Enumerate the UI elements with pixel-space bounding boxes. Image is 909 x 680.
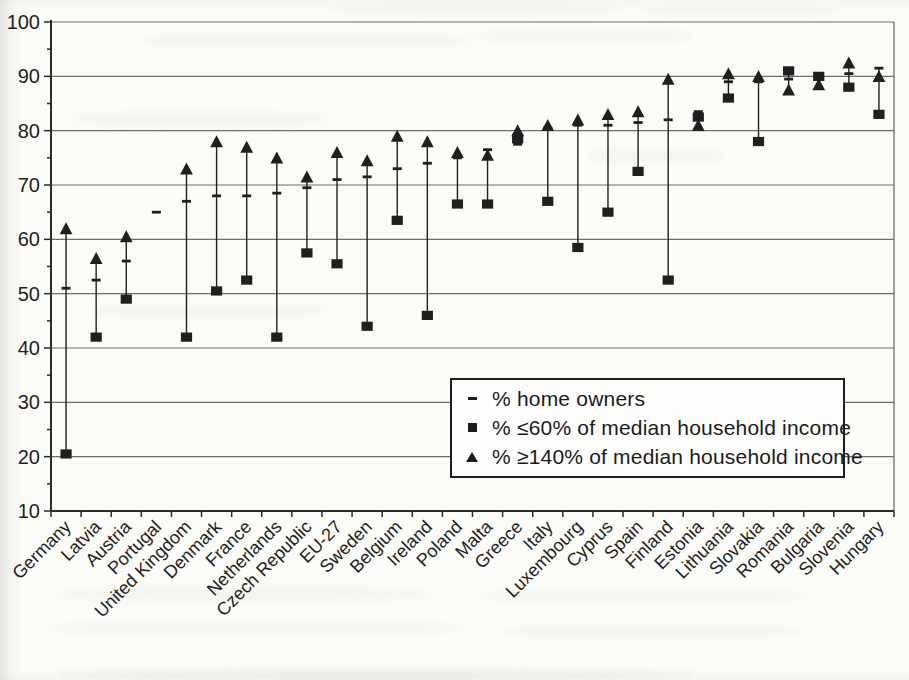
triangle-marker-icon (602, 108, 615, 120)
dash-marker-icon (302, 186, 311, 189)
y-axis-ticks (44, 22, 51, 511)
square-marker-icon (572, 243, 583, 252)
dash-marker-icon (724, 80, 733, 83)
dash-marker-icon (423, 162, 432, 165)
dash-marker-icon (634, 121, 643, 124)
series-home-owners (62, 67, 884, 290)
triangle-marker-icon (210, 135, 223, 147)
square-marker-icon (783, 66, 794, 75)
dash-marker-icon (92, 279, 101, 282)
square-marker-icon (91, 333, 102, 342)
x-axis-labels: GermanyLatviaAustriaPortugalUnited Kingd… (8, 516, 887, 621)
legend-marker-cell (452, 397, 492, 400)
square-marker-icon (468, 423, 477, 432)
chart-canvas: 102030405060708090100GermanyLatviaAustri… (0, 0, 909, 680)
y-tick-label: 70 (18, 174, 40, 196)
triangle-marker-icon (331, 146, 344, 158)
dash-marker-icon (468, 397, 477, 400)
scanned-chart-page: 102030405060708090100GermanyLatviaAustri… (0, 0, 909, 680)
dash-marker-icon (664, 118, 673, 121)
dash-marker-icon (393, 167, 402, 170)
legend-marker-cell (452, 452, 492, 462)
y-tick-label: 90 (18, 65, 40, 87)
triangle-marker-icon (842, 56, 855, 68)
dash-marker-icon (874, 67, 883, 70)
triangle-marker-icon (90, 252, 103, 264)
triangle-marker-icon (782, 84, 795, 96)
y-tick-label: 10 (18, 500, 40, 522)
y-tick-label: 20 (18, 446, 40, 468)
square-marker-icon (753, 137, 764, 146)
square-marker-icon (271, 333, 282, 342)
legend-label-low-income: % ≤60% of median household income (492, 416, 851, 440)
triangle-marker-icon (270, 152, 283, 164)
dash-marker-icon (363, 175, 372, 178)
square-marker-icon (121, 295, 132, 304)
square-marker-icon (723, 93, 734, 102)
dash-marker-icon (333, 178, 342, 181)
dash-marker-icon (152, 211, 161, 214)
triangle-marker-icon (451, 146, 464, 158)
square-marker-icon (422, 311, 433, 320)
triangle-marker-icon (466, 452, 478, 462)
legend-marker-cell (452, 423, 492, 432)
square-marker-icon (241, 275, 252, 284)
square-marker-icon (602, 208, 613, 217)
triangle-marker-icon (722, 67, 735, 79)
triangle-marker-icon (361, 154, 374, 166)
y-tick-label: 40 (18, 337, 40, 359)
square-marker-icon (392, 216, 403, 225)
dash-marker-icon (272, 192, 281, 195)
triangle-marker-icon (240, 141, 253, 153)
series-high-income (60, 56, 886, 264)
square-marker-icon (482, 199, 493, 208)
triangle-marker-icon (541, 119, 554, 131)
square-marker-icon (663, 275, 674, 284)
dash-marker-icon (122, 260, 131, 263)
legend-item-high-income: % ≥140% of median household income (452, 443, 837, 472)
y-tick-label: 100 (7, 11, 40, 33)
y-tick-label: 30 (18, 391, 40, 413)
dash-marker-icon (182, 200, 191, 203)
triangle-marker-icon (632, 105, 645, 117)
dash-marker-icon (784, 78, 793, 81)
legend-item-home-owners: % home owners (452, 384, 837, 413)
triangle-marker-icon (662, 73, 675, 85)
square-marker-icon (211, 286, 222, 295)
square-marker-icon (362, 322, 373, 331)
square-marker-icon (181, 333, 192, 342)
legend: % home owners % ≤60% of median household… (450, 378, 845, 478)
y-tick-label: 80 (18, 120, 40, 142)
legend-item-low-income: % ≤60% of median household income (452, 413, 837, 442)
square-marker-icon (331, 259, 342, 268)
dash-marker-icon (212, 194, 221, 197)
triangle-marker-icon (60, 222, 73, 234)
legend-label-home-owners: % home owners (492, 387, 645, 411)
dash-marker-icon (603, 124, 612, 127)
triangle-marker-icon (120, 230, 133, 242)
triangle-marker-icon (391, 130, 404, 142)
square-marker-icon (301, 248, 312, 257)
triangle-marker-icon (301, 171, 314, 183)
dash-marker-icon (844, 72, 853, 75)
y-tick-label: 60 (18, 228, 40, 250)
square-marker-icon (632, 167, 643, 176)
triangle-marker-icon (571, 114, 584, 126)
dash-marker-icon (62, 287, 71, 290)
triangle-marker-icon (421, 135, 434, 147)
square-marker-icon (542, 197, 553, 206)
y-axis-labels: 102030405060708090100 (7, 11, 40, 522)
square-marker-icon (873, 110, 884, 119)
square-marker-icon (843, 83, 854, 92)
legend-label-high-income: % ≥140% of median household income (492, 445, 863, 469)
y-tick-label: 50 (18, 283, 40, 305)
square-marker-icon (452, 199, 463, 208)
triangle-marker-icon (180, 162, 193, 174)
square-marker-icon (60, 449, 71, 458)
dash-marker-icon (242, 194, 251, 197)
